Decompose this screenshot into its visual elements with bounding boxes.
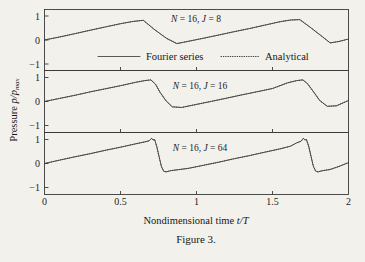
svg-text:Pressure p/pmax: Pressure p/pmax [8, 77, 21, 141]
panel-j8-x-ticks [121, 67, 273, 71]
panel-j64: 1 0 −1 N = 16, J = 64 [29, 133, 348, 195]
panel-j64-ytick-1: 1 [35, 134, 40, 145]
x-axis-tick-labels: 0 0.5 1 1.5 2 [42, 196, 351, 207]
panel-j16-ytick-neg1: −1 [29, 120, 40, 131]
panel-j16-annotation: N = 16, J = 16 [172, 81, 228, 91]
panel-j16: 1 0 −1 N = 16, J = 16 [29, 71, 348, 133]
panel-j64-frame [45, 133, 349, 195]
xtick-0point5: 0.5 [114, 196, 127, 207]
legend: Fourier series Analytical [98, 51, 309, 62]
panel-j8-ytick-neg1: −1 [29, 59, 40, 70]
y-axis-label-symbol: p/p [8, 90, 19, 104]
panel-j16-ytick-0: 0 [35, 96, 40, 107]
panel-j64-annotation: N = 16, J = 64 [172, 143, 228, 153]
figure-svg: Pressure p/pmax 1 0 −1 [0, 0, 365, 262]
panel-j16-x-ticks [121, 129, 273, 133]
xtick-2: 2 [346, 196, 351, 207]
panel-j8: 1 0 −1 N = 16, J = 8 Fourier series An [29, 10, 348, 71]
xtick-1point5: 1.5 [266, 196, 279, 207]
x-axis-label-symbol: t/T [237, 215, 250, 226]
legend-label-fourier: Fourier series [146, 51, 203, 62]
panel-j64-x-ticks [121, 191, 273, 195]
panel-j64-ytick-0: 0 [35, 158, 40, 169]
x-axis-label-prefix: Nondimensional time [143, 215, 236, 226]
y-axis-label-subscript: max [13, 77, 21, 90]
figure-3-container: Pressure p/pmax 1 0 −1 [0, 0, 365, 262]
figure-caption: Figure 3. [176, 233, 216, 245]
panel-j64-ytick-neg1: −1 [29, 182, 40, 193]
panel-j8-ytick-0: 0 [35, 35, 40, 46]
legend-label-analytical: Analytical [265, 51, 309, 62]
xtick-0: 0 [42, 196, 47, 207]
panel-j16-ytick-1: 1 [35, 72, 40, 83]
panel-j8-ytick-1: 1 [35, 11, 40, 22]
xtick-1: 1 [194, 196, 199, 207]
x-axis-label: Nondimensional time t/T [143, 215, 249, 226]
panel-j8-annotation: N = 16, J = 8 [170, 14, 221, 24]
y-axis-label: Pressure p/pmax [8, 77, 21, 141]
y-axis-label-prefix: Pressure [8, 103, 19, 141]
